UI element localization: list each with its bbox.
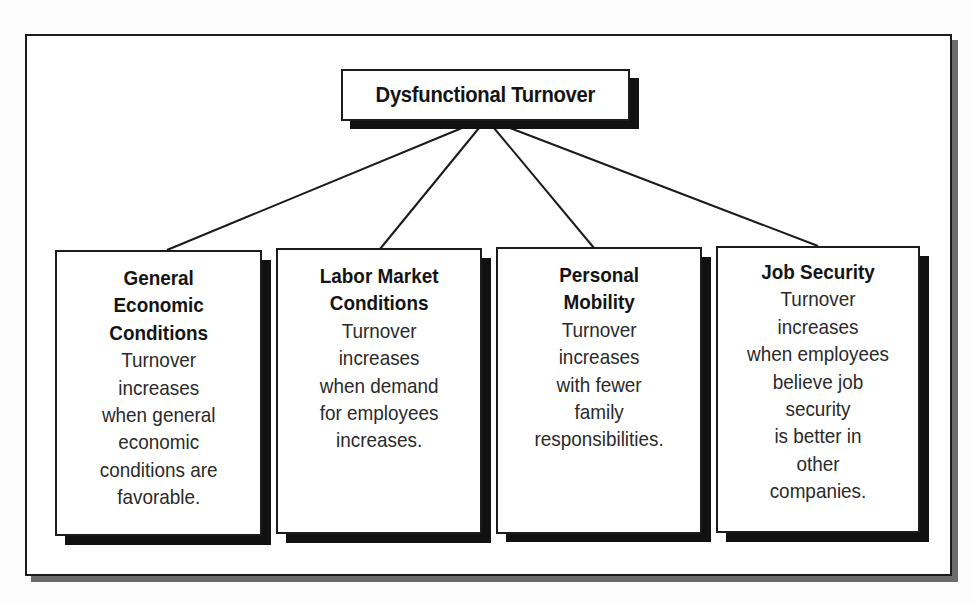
root-node: Dysfunctional Turnover (341, 69, 630, 121)
text-line: Turnover (56, 346, 261, 373)
title-line: Job Security (717, 258, 919, 285)
text-line: family (497, 398, 701, 425)
text-line: increases (497, 343, 701, 370)
text-line: conditions are (56, 456, 261, 483)
factor-node-labor-market: Labor Market Conditions Turnover increas… (276, 248, 482, 534)
factor-title: General Economic Conditions (56, 264, 261, 346)
factor-description: Turnover increases when demand for emplo… (277, 317, 481, 454)
text-line: Turnover (277, 317, 481, 344)
text-line: when demand (277, 372, 481, 399)
text-line: believe job (717, 368, 919, 395)
root-title: Dysfunctional Turnover (376, 82, 596, 108)
text-line: increases (717, 313, 919, 340)
diagram-canvas: Dysfunctional Turnover General Economic … (0, 0, 974, 604)
text-line: when employees (717, 340, 919, 367)
title-line: Economic (56, 291, 261, 318)
title-line: Mobility (497, 288, 701, 315)
text-line: Turnover (717, 285, 919, 312)
text-line: Turnover (497, 316, 701, 343)
factor-description: Turnover increases when employees believ… (717, 285, 919, 504)
title-line: Labor Market (277, 262, 481, 289)
factor-title: Personal Mobility (497, 261, 701, 316)
title-line: Personal (497, 261, 701, 288)
text-line: companies. (717, 477, 919, 504)
factor-node-general-economic: General Economic Conditions Turnover inc… (55, 250, 262, 536)
text-line: for employees (277, 399, 481, 426)
factor-description: Turnover increases when general economic… (56, 346, 261, 510)
text-line: increases. (277, 426, 481, 453)
text-line: responsibilities. (497, 425, 701, 452)
text-line: other (717, 450, 919, 477)
factor-title: Job Security (717, 258, 919, 285)
text-line: with fewer (497, 371, 701, 398)
factor-node-job-security: Job Security Turnover increases when emp… (716, 246, 920, 533)
text-line: security (717, 395, 919, 422)
title-line: Conditions (277, 289, 481, 316)
factor-node-personal-mobility: Personal Mobility Turnover increases wit… (496, 247, 702, 534)
text-line: is better in (717, 422, 919, 449)
text-line: increases (277, 344, 481, 371)
title-line: Conditions (56, 319, 261, 346)
text-line: economic (56, 428, 261, 455)
text-line: increases (56, 374, 261, 401)
title-line: General (56, 264, 261, 291)
factor-title: Labor Market Conditions (277, 262, 481, 317)
factor-description: Turnover increases with fewer family res… (497, 316, 701, 453)
text-line: when general (56, 401, 261, 428)
text-line: favorable. (56, 483, 261, 510)
